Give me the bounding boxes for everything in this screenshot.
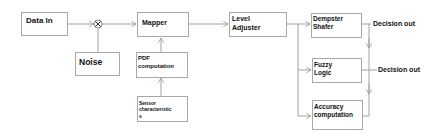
level-label-line2: Adjuster xyxy=(232,24,284,33)
pdf-label-line2: computation xyxy=(138,63,186,71)
dempster-shafer-box: Dempster Shafer xyxy=(311,13,362,38)
noise-label: Noise xyxy=(79,57,102,67)
pdf-computation-box: PDF computation xyxy=(136,52,188,78)
accuracy-label-line1: Accuracy xyxy=(314,103,361,111)
accuracy-computation-box: Accuracy computation xyxy=(312,100,363,130)
fuzzy-label-line1: Fuzzy xyxy=(314,61,360,69)
decision-out-2: Decision out xyxy=(378,66,420,73)
decision-out-1: Decision out xyxy=(373,20,415,27)
accuracy-label-line2: computation xyxy=(314,111,361,119)
data-in-box: Data In xyxy=(21,12,68,36)
sensor-label-line3: s xyxy=(139,113,186,119)
fuzzy-label-line2: Logic xyxy=(314,69,360,77)
mapper-label: Mapper xyxy=(142,19,167,26)
pdf-label-line1: PDF xyxy=(138,55,186,63)
level-adjuster-box: Level Adjuster xyxy=(229,12,287,37)
level-label-line1: Level xyxy=(232,15,284,24)
block-diagram: Data In Noise Mapper PDF computation Sen… xyxy=(0,0,443,140)
mapper-box: Mapper xyxy=(137,12,189,37)
noise-box: Noise xyxy=(75,52,120,76)
data-in-label: Data In xyxy=(26,16,53,25)
dempster-label-line2: Shafer xyxy=(313,23,360,31)
fuzzy-logic-box: Fuzzy Logic xyxy=(312,58,362,83)
dempster-label-line1: Dempster xyxy=(313,15,360,23)
sensor-characteristics-box: Sensor characteristic s xyxy=(137,96,188,122)
